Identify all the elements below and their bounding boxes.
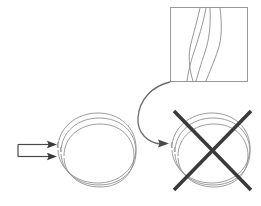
incoming-beam-arrowheads — [47, 141, 57, 160]
coiled-ring-intact — [57, 113, 136, 187]
incoming-beam-arrows — [18, 145, 50, 157]
magnified-inset-box-group — [171, 8, 248, 82]
magnified-inset-box — [171, 8, 248, 82]
cross-out-x-mark — [174, 111, 251, 190]
zoom-callout-arrowhead — [158, 140, 169, 148]
zoom-callout-curved-arrow-group — [138, 82, 170, 148]
zoom-callout-curved-arrow — [138, 82, 170, 144]
schematic-diagram — [0, 0, 261, 206]
ring-left-turn-outer — [58, 113, 136, 183]
figure-canvas — [0, 0, 261, 206]
